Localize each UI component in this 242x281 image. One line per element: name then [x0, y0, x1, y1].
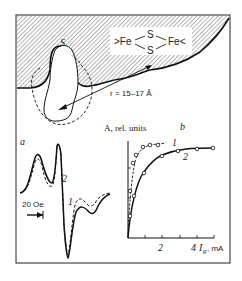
- curve-b-label-2: 2: [183, 151, 188, 162]
- figure: S >Fe S S Fe< r = 15–17 Å a 2 1 20 Oe A,…: [0, 0, 242, 281]
- panel-b-label: b: [180, 121, 185, 132]
- x-tick-2: 2: [158, 242, 163, 253]
- x-tick-4: 4: [191, 242, 196, 253]
- curve-b-2-markers: [128, 146, 215, 218]
- curve-b-label-1: 1: [172, 137, 177, 148]
- panel-a-label: a: [20, 136, 25, 147]
- chem-fe-right: Fe<: [168, 36, 186, 47]
- chem-fe-left: >Fe: [114, 36, 132, 47]
- curve-a-label-1: 1: [68, 196, 73, 207]
- curve-b-2: [128, 148, 214, 238]
- chem-s-bottom: S: [147, 45, 154, 56]
- label-s: S: [60, 37, 65, 48]
- curve-b-1-markers: [128, 143, 160, 193]
- curve-a-label-2: 2: [62, 173, 67, 184]
- x-axis-unit: , mA: [207, 244, 224, 253]
- scale-bar-label: 20 Oe: [22, 200, 44, 209]
- radius-label: r = 15–17 Å: [110, 89, 152, 98]
- chem-s-top: S: [147, 29, 154, 40]
- panel-b-ylabel: A, rel. units: [104, 123, 147, 133]
